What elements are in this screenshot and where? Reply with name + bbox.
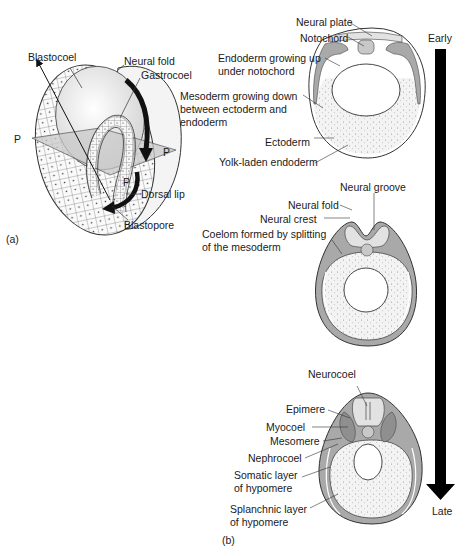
label-blastopore: Blastopore bbox=[124, 219, 174, 231]
label-ectoderm: Ectoderm bbox=[265, 136, 310, 148]
label-mesoderm-growing-down-line1: Mesoderm growing down bbox=[180, 90, 297, 102]
label-blastocoel: Blastocoel bbox=[28, 51, 76, 63]
label-splanchnic-layer-line1: Splanchnic layer bbox=[230, 503, 307, 515]
stage2-cross-section bbox=[315, 193, 416, 346]
label-early: Early bbox=[428, 32, 452, 44]
early-to-late-arrow bbox=[426, 49, 455, 500]
label-dorsal-lip: Dorsal lip bbox=[141, 188, 185, 200]
label-splanchnic-layer-line2: of hypomere bbox=[230, 516, 288, 528]
gastrula-illustration bbox=[20, 54, 181, 246]
label-somatic-layer-line1: Somatic layer bbox=[234, 469, 298, 481]
label-mesoderm-growing-down-line2: between ectoderm and bbox=[180, 103, 287, 115]
label-mesomere: Mesomere bbox=[270, 435, 320, 447]
label-plane-p-bottom: P bbox=[123, 176, 130, 188]
label-neurocoel: Neurocoel bbox=[308, 368, 356, 380]
label-plane-p-left: P bbox=[14, 133, 21, 145]
label-coelom-line1: Coelom formed by splitting bbox=[202, 228, 326, 240]
label-endoderm-growing-up-line1: Endoderm growing up bbox=[218, 52, 321, 64]
label-epimere: Epimere bbox=[286, 403, 325, 415]
label-neural-fold-a: Neural fold bbox=[124, 55, 175, 67]
label-neural-fold-b: Neural fold bbox=[288, 199, 339, 211]
label-notochord: Notochord bbox=[300, 32, 348, 44]
label-neural-crest: Neural crest bbox=[260, 213, 317, 225]
label-mesoderm-growing-down-line3: endoderm bbox=[180, 116, 227, 128]
label-myocoel: Myocoel bbox=[266, 421, 305, 433]
label-yolk-laden-endoderm: Yolk-laden endoderm bbox=[219, 156, 318, 168]
label-coelom-line2: of the mesoderm bbox=[202, 241, 281, 253]
label-neural-plate: Neural plate bbox=[296, 16, 353, 28]
label-nephrocoel: Nephrocoel bbox=[248, 452, 302, 464]
label-somatic-layer-line2: of hypomere bbox=[234, 482, 292, 494]
panel-b-tag: (b) bbox=[222, 534, 235, 546]
label-endoderm-growing-up-line2: under notochord bbox=[218, 65, 294, 77]
panel-a-tag: (a) bbox=[6, 233, 19, 245]
label-gastrocoel: Gastrocoel bbox=[141, 69, 192, 81]
label-neural-groove: Neural groove bbox=[340, 181, 406, 193]
label-plane-p-right: P bbox=[163, 146, 170, 158]
label-late: Late bbox=[432, 505, 452, 517]
